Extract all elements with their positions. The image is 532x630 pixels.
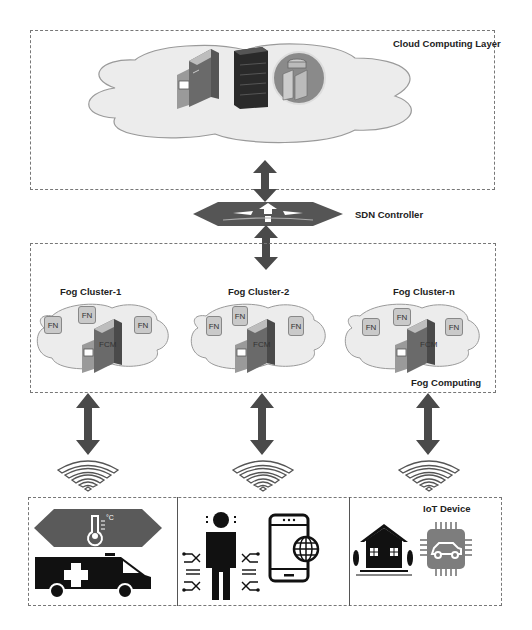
server-tower-icon <box>175 45 225 110</box>
thermometer-sensor-icon: °C <box>34 508 162 548</box>
wifi-icon <box>397 458 461 492</box>
fog-cluster-manager-label: FCM <box>99 340 116 349</box>
wifi-icon <box>231 458 295 492</box>
iot-device-label: IoT Device <box>423 503 471 514</box>
double-arrow-fog-iot-1 <box>76 393 100 455</box>
smartphone-globe-icon <box>268 513 320 585</box>
router-switch-icon <box>193 200 343 228</box>
svg-text:°C: °C <box>106 514 114 521</box>
iot-divider-2 <box>349 497 350 606</box>
fog-cluster-manager-label: FCM <box>253 340 270 349</box>
ambulance-icon <box>33 553 155 598</box>
database-server-icon <box>271 50 327 106</box>
sdn-controller-label: SDN Controller <box>355 209 423 220</box>
double-arrow-cloud-sdn <box>253 160 277 202</box>
fog-cluster-n-title: Fog Cluster-n <box>393 286 455 297</box>
wifi-icon <box>56 458 120 492</box>
fog-node: FN <box>362 318 380 336</box>
double-arrow-fog-iot-2 <box>250 393 274 455</box>
fog-cluster-1-title: Fog Cluster-1 <box>60 286 121 297</box>
fog-computing-label: Fog Computing <box>411 377 481 388</box>
wearable-person-icon <box>180 510 262 602</box>
fog-node: FN <box>206 316 222 336</box>
smart-home-icon <box>352 520 414 582</box>
fog-node: FN <box>134 316 152 334</box>
iot-divider-1 <box>177 497 178 606</box>
fog-node: FN <box>44 316 62 334</box>
fog-node: FN <box>288 316 304 336</box>
rack-server-icon <box>232 45 272 110</box>
double-arrow-fog-iot-3 <box>416 393 440 455</box>
fog-node: FN <box>445 318 463 336</box>
car-chip-icon <box>420 522 472 576</box>
fog-cluster-manager-label: FCM <box>420 340 437 349</box>
fog-cluster-2-title: Fog Cluster-2 <box>228 286 289 297</box>
